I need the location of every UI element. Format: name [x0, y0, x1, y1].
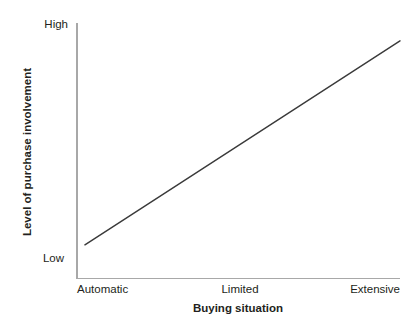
x-axis-tick-automatic: Automatic: [77, 283, 128, 296]
y-axis-title: Level of purchase involvement: [21, 68, 33, 236]
plot-area: [0, 0, 415, 331]
y-axis-tick-high: High: [44, 18, 68, 31]
y-axis-line: [76, 23, 78, 279]
chart-figure: High Low Automatic Limited Extensive Buy…: [0, 0, 415, 331]
x-axis-title: Buying situation: [193, 302, 283, 314]
y-axis-tick-low: Low: [43, 252, 64, 265]
x-axis-tick-extensive: Extensive: [350, 283, 400, 296]
trend-line: [85, 41, 400, 245]
x-axis-line: [76, 278, 400, 280]
x-axis-tick-limited: Limited: [221, 283, 258, 296]
